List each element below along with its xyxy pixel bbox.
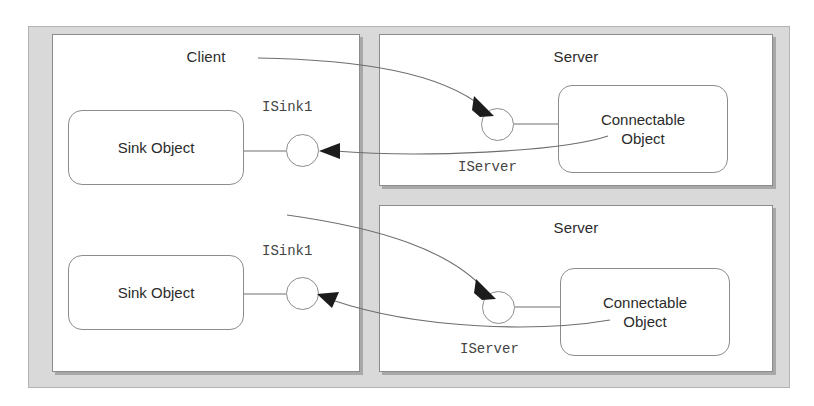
isink1-top-label: ISink1 bbox=[262, 99, 312, 115]
sink-object-bottom: Sink Object bbox=[68, 255, 244, 330]
client-panel-title: Client bbox=[53, 48, 359, 65]
iserver-top-label: IServer bbox=[458, 159, 517, 175]
connectable-object-top-line2: Object bbox=[621, 129, 664, 148]
iserver-bottom-label: IServer bbox=[460, 341, 519, 357]
connectable-object-top-line1: Connectable bbox=[601, 110, 685, 129]
connectable-object-bottom: Connectable Object bbox=[560, 268, 730, 356]
iserver-top-connector bbox=[481, 108, 514, 141]
isink1-bottom-connector bbox=[286, 277, 319, 310]
connectable-object-bottom-line2: Object bbox=[623, 312, 666, 331]
server-panel-top-title: Server bbox=[380, 48, 772, 65]
sink-object-bottom-label: Sink Object bbox=[118, 283, 195, 302]
isink1-bottom-label: ISink1 bbox=[262, 243, 312, 259]
sink-object-top: Sink Object bbox=[68, 110, 244, 185]
iserver-bottom-connector bbox=[482, 291, 515, 324]
connectable-object-top: Connectable Object bbox=[558, 85, 728, 173]
isink1-top-connector bbox=[286, 134, 319, 167]
server-panel-bottom-title: Server bbox=[380, 219, 772, 236]
diagram-canvas: Client Sink Object ISink1 Sink Object IS… bbox=[0, 0, 814, 406]
connectable-object-bottom-line1: Connectable bbox=[603, 293, 687, 312]
sink-object-top-label: Sink Object bbox=[118, 138, 195, 157]
